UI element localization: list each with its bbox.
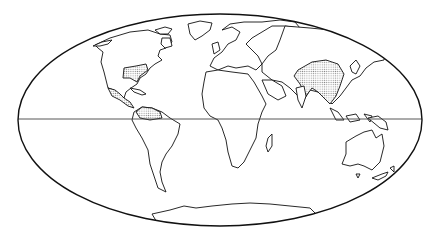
british-isles: [212, 42, 220, 54]
tasmania: [356, 174, 360, 178]
new-guinea: [368, 116, 388, 130]
caribbean-islands: [130, 88, 146, 95]
india: [296, 86, 306, 108]
world-map: [0, 0, 441, 235]
new-zealand: [372, 166, 394, 180]
south-america: [132, 107, 180, 192]
greenland: [188, 21, 212, 40]
arabia: [262, 80, 286, 100]
australia: [342, 130, 384, 170]
madagascar: [266, 134, 272, 152]
northern-south-america: [136, 107, 162, 120]
indonesia: [330, 108, 372, 122]
north-america: [95, 30, 172, 98]
